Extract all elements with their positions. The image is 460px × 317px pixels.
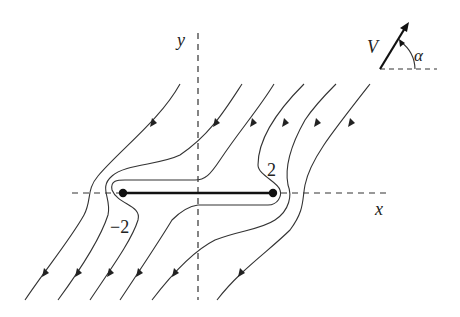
arrow-icon [282, 118, 289, 127]
flow-diagram: y x −2 2 V α [0, 0, 460, 317]
arrow-icon [136, 268, 143, 277]
velocity-label: V [367, 37, 380, 57]
velocity-inset: V α [367, 22, 437, 69]
arrow-icon [42, 268, 49, 277]
plate-left-label: −2 [110, 217, 129, 237]
arrow-icon [75, 268, 82, 277]
arrow-icon [348, 118, 355, 127]
arrow-icon [213, 118, 220, 127]
arrow-icon [250, 118, 257, 127]
plate-right-end [269, 189, 277, 197]
arrow-icon [238, 268, 245, 277]
plate-left-end [119, 189, 127, 197]
angle-arrow-icon [399, 39, 405, 47]
velocity-arrow-icon [400, 22, 409, 32]
x-axis-label: x [374, 199, 383, 219]
velocity-vector [380, 28, 405, 69]
arrow-icon [314, 118, 321, 127]
angle-label: α [414, 46, 424, 65]
plate-right-label: 2 [267, 160, 276, 180]
y-axis-label: y [175, 30, 185, 50]
angle-arc [401, 42, 415, 69]
